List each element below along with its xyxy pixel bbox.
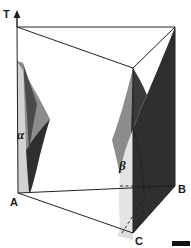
ternary-prism-diagram: T A B C α β (0, 0, 191, 248)
t-axis-label: T (3, 8, 10, 20)
vertex-label-b: B (178, 183, 186, 195)
beta-region-label: β (118, 158, 126, 173)
temperature-axis (14, 10, 21, 27)
vertex-label-c: C (135, 235, 143, 247)
up-arrow-icon (14, 10, 21, 18)
phase-diagram-figure: T A B C α β (0, 0, 191, 248)
alpha-region-label: α (17, 127, 25, 142)
corner-mark (172, 241, 190, 246)
vertex-label-a: A (10, 196, 18, 208)
